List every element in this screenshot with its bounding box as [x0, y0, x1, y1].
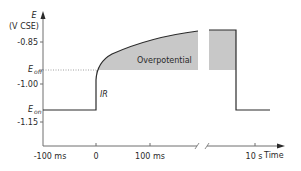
x-tick-label: 10 s	[246, 152, 263, 161]
e-off-subscript: off	[34, 68, 43, 75]
ir-drop-label: IR	[100, 90, 108, 99]
x-tick-label: 100 ms	[135, 152, 165, 161]
y-axis-arrow-icon	[41, 11, 46, 19]
y-tick-label: -1.15	[17, 118, 38, 127]
y-axis-symbol: E	[31, 11, 37, 20]
overpotential-area-2	[209, 30, 236, 70]
e-on-subscript: on	[34, 108, 42, 115]
x-axis-arrow-icon	[277, 144, 285, 149]
x-tick-label: 0	[93, 152, 98, 161]
potential-time-diagram: E (V CSE) -0.85 -1.00 -1.15 E off E on I…	[0, 0, 301, 171]
x-tick-label: -100 ms	[34, 152, 67, 161]
overpotential-label: Overpotential	[137, 56, 192, 65]
y-tick-label: -1.00	[17, 80, 38, 89]
y-axis-unit: (V CSE)	[9, 22, 39, 31]
y-tick-label: -0.85	[17, 38, 38, 47]
x-axis-label: Time	[263, 151, 284, 160]
